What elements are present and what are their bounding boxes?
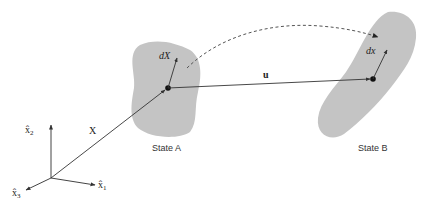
state-a-label: State A bbox=[152, 143, 181, 153]
deformation-diagram: x̂2 x̂1 x̂3 X dX u dx State A State B bbox=[0, 0, 426, 207]
position-vector-X bbox=[51, 90, 165, 178]
axis-x3-label: x̂3 bbox=[12, 187, 21, 200]
position-vector-label: X bbox=[89, 125, 97, 136]
material-line-label: dX bbox=[159, 50, 171, 61]
axis-x2-label: x̂2 bbox=[25, 124, 34, 137]
axis-x1-label: x̂1 bbox=[98, 179, 107, 192]
spatial-line-label: dx bbox=[366, 45, 376, 56]
displacement-vector-label: u bbox=[263, 69, 269, 80]
axis-x1 bbox=[51, 178, 95, 185]
state-b-label: State B bbox=[358, 143, 388, 153]
body-state-b bbox=[318, 12, 416, 138]
axis-x3 bbox=[26, 178, 51, 190]
mapping-curve bbox=[187, 25, 378, 68]
